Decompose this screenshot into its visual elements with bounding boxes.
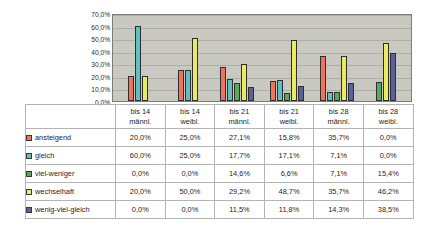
bar [334, 92, 340, 101]
table-row: ansteigend20,0%25,0%27,1%15,8%35,7%0,0% [26, 129, 414, 147]
bar [390, 53, 396, 101]
bar [383, 43, 389, 101]
bar [142, 76, 148, 101]
series-legend-cell: wechselhaft [26, 183, 116, 201]
legend-swatch-icon [26, 189, 32, 195]
series-legend-cell: viel-weniger [26, 165, 116, 183]
series-label: wechselhaft [35, 187, 74, 196]
table-row: gleich60,0%25,0%17,7%17,1%7,1%0,0% [26, 147, 414, 165]
table-column-header-line1: bis 28 [364, 107, 413, 117]
table-header-row: bis 14männl.bis 14weibl.bis 21männl.bis … [26, 105, 414, 129]
bar-group [262, 15, 312, 101]
bar [298, 86, 304, 101]
table-cell-value: 0,0% [363, 147, 413, 165]
table-cell-value: 46,2% [363, 183, 413, 201]
bar [327, 92, 333, 101]
table-column-header-line1: bis 14 [116, 107, 165, 117]
bar [128, 76, 134, 101]
table-cell-value: 20,0% [116, 183, 166, 201]
table-column-header: bis 21weibl. [264, 105, 314, 129]
table-column-header-line1: bis 21 [215, 107, 264, 117]
table-column-header-line2: weibl. [265, 117, 314, 127]
table-cell-value: 17,7% [215, 147, 265, 165]
series-legend-cell: ansteigend [26, 129, 116, 147]
table-column-header-line2: weibl. [364, 117, 413, 127]
table-body: ansteigend20,0%25,0%27,1%15,8%35,7%0,0%g… [26, 129, 414, 219]
y-axis-tick-labels: 70,0%60,0%50,0%40,0%30,0%20,0%10,0%0,0% [74, 11, 110, 103]
legend-swatch-icon [26, 207, 32, 213]
y-axis-tick-label: 60,0% [91, 23, 110, 30]
table-column-header: bis 28männl. [314, 105, 364, 129]
table-row: wechselhaft20,0%50,0%29,2%48,7%35,7%46,2… [26, 183, 414, 201]
table-cell-value: 0,0% [116, 165, 166, 183]
y-axis-tick-label: 50,0% [91, 36, 110, 43]
table-cell-value: 11,8% [264, 201, 314, 219]
plot-area [112, 14, 412, 102]
legend-swatch-icon [26, 171, 32, 177]
bar [135, 26, 141, 101]
data-table: bis 14männl.bis 14weibl.bis 21männl.bis … [25, 104, 414, 219]
bar [178, 70, 184, 101]
series-label: gleich [35, 151, 54, 160]
bar-group [113, 15, 163, 101]
table-cell-value: 0,0% [116, 201, 166, 219]
table-cell-value: 7,1% [314, 165, 364, 183]
bar [241, 64, 247, 101]
table-column-header: bis 28weibl. [363, 105, 413, 129]
bar [376, 82, 382, 101]
bar-groups-layer [113, 15, 411, 101]
bar [227, 79, 233, 101]
table-cell-value: 15,4% [363, 165, 413, 183]
bar [341, 56, 347, 101]
bar [234, 83, 240, 101]
bar [291, 40, 297, 101]
table-column-header: bis 14männl. [116, 105, 166, 129]
table-cell-value: 29,2% [215, 183, 265, 201]
bar-group [212, 15, 262, 101]
bar-group [312, 15, 362, 101]
table-cell-value: 14,6% [215, 165, 265, 183]
bar [220, 67, 226, 101]
table-column-header-line2: männl. [215, 117, 264, 127]
bar [185, 70, 191, 101]
table-column-header-line2: männl. [314, 117, 363, 127]
table-cell-value: 35,7% [314, 129, 364, 147]
table-row: wenig-viel-gleich0,0%0,0%11,5%11,8%14,3%… [26, 201, 414, 219]
table-corner-cell [26, 105, 116, 129]
legend-swatch-icon [26, 135, 32, 141]
table-cell-value: 27,1% [215, 129, 265, 147]
table-column-header-line2: männl. [116, 117, 165, 127]
bar [284, 93, 290, 101]
table-cell-value: 0,0% [363, 129, 413, 147]
table-column-header: bis 21männl. [215, 105, 265, 129]
bar-group [163, 15, 213, 101]
bar [270, 81, 276, 101]
table-cell-value: 11,5% [215, 201, 265, 219]
table-column-header-line2: weibl. [166, 117, 215, 127]
table-column-header-line1: bis 28 [314, 107, 363, 117]
table-cell-value: 60,0% [116, 147, 166, 165]
bar-group [361, 15, 411, 101]
series-legend-cell: wenig-viel-gleich [26, 201, 116, 219]
table-cell-value: 7,1% [314, 147, 364, 165]
bar [348, 83, 354, 101]
table-cell-value: 6,6% [264, 165, 314, 183]
series-label: wenig-viel-gleich [35, 205, 90, 214]
y-axis-tick-label: 30,0% [91, 61, 110, 68]
table-cell-value: 25,0% [165, 129, 215, 147]
bar [320, 56, 326, 101]
table-cell-value: 50,0% [165, 183, 215, 201]
table-cell-value: 25,0% [165, 147, 215, 165]
table-column-header: bis 14weibl. [165, 105, 215, 129]
series-legend-cell: gleich [26, 147, 116, 165]
table-row: viel-weniger0,0%0,0%14,6%6,6%7,1%15,4% [26, 165, 414, 183]
y-axis-tick-label: 10,0% [91, 86, 110, 93]
legend-swatch-icon [26, 153, 32, 159]
table-header: bis 14männl.bis 14weibl.bis 21männl.bis … [26, 105, 414, 129]
y-axis-tick-label: 20,0% [91, 73, 110, 80]
y-axis-tick-label: 40,0% [91, 48, 110, 55]
table-cell-value: 17,1% [264, 147, 314, 165]
table-cell-value: 48,7% [264, 183, 314, 201]
table-cell-value: 20,0% [116, 129, 166, 147]
y-axis-tick-label: 70,0% [91, 11, 110, 18]
